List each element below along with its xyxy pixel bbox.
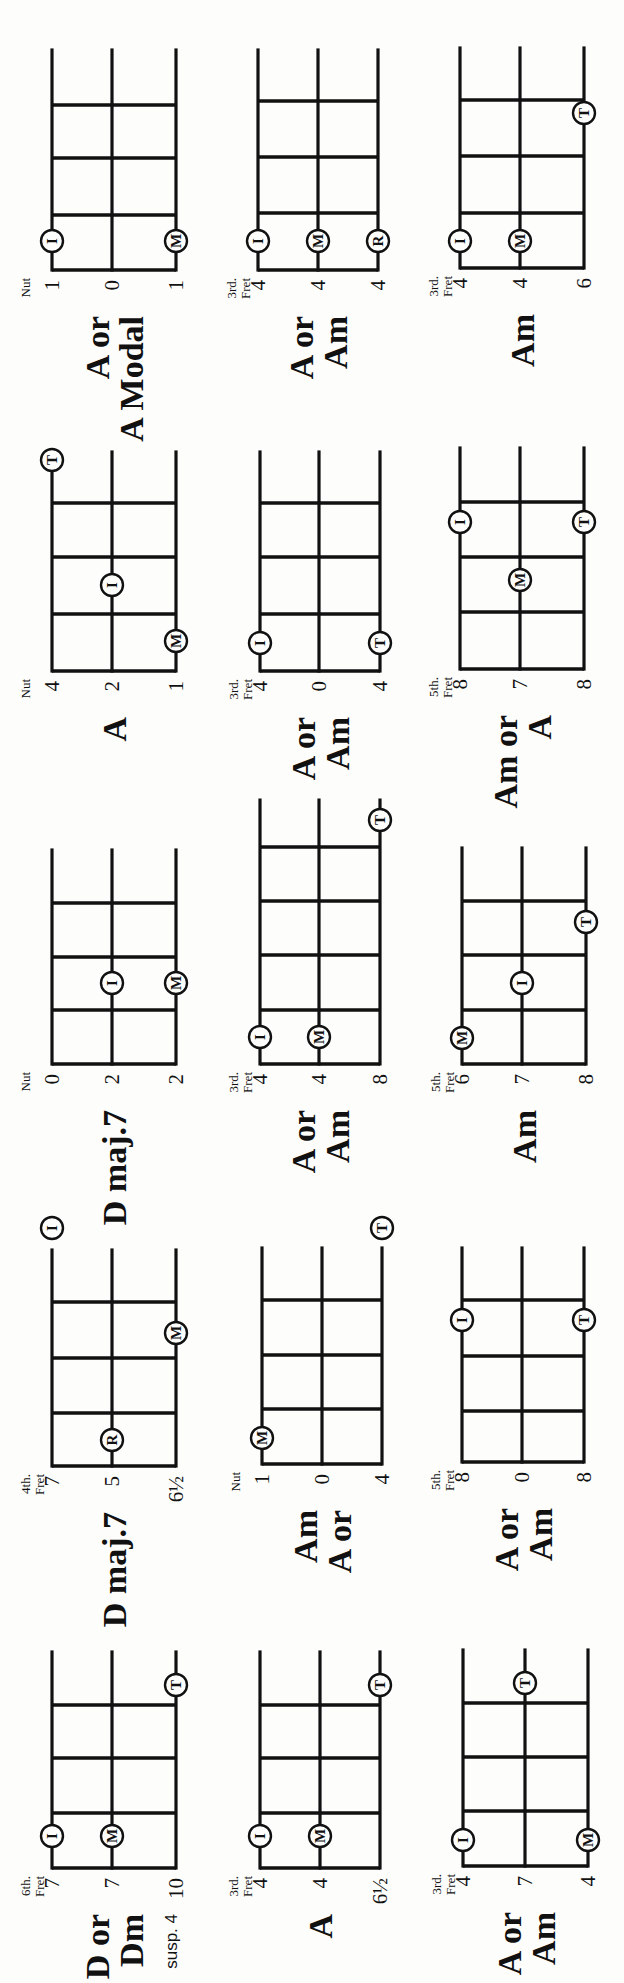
finger-label: I — [44, 1225, 60, 1231]
chord-name: D maj.7 — [96, 1512, 133, 1627]
string-fret-number: 10 — [164, 1878, 188, 1899]
finger-label: M — [312, 1829, 328, 1843]
position-label-fret: Fret — [32, 1474, 47, 1495]
finger-label: I — [252, 1833, 268, 1839]
finger-label: I — [104, 980, 120, 986]
position-label-fret: Fret — [240, 679, 255, 700]
string-fret-number: 0 — [310, 1474, 334, 1485]
chord-diagram: 421NutMITA — [18, 449, 188, 742]
chord-name: A or — [285, 1110, 322, 1173]
chord-name: A or — [321, 1510, 358, 1573]
chord-name: Am or — [487, 715, 524, 808]
finger-label: M — [104, 1829, 120, 1843]
finger-label: R — [370, 235, 386, 246]
position-label: Nut — [18, 278, 33, 298]
chord-name: Am — [319, 717, 356, 770]
string-fret-number: 4 — [40, 681, 64, 692]
position-label-fret: Fret — [32, 1876, 47, 1897]
position-label-fret: Fret — [442, 1470, 457, 1491]
position-label: 5th. — [428, 1072, 443, 1092]
string-fret-number: 6½ — [368, 1878, 392, 1904]
finger-label: M — [168, 634, 184, 648]
finger-label: I — [44, 1833, 60, 1839]
finger-label: T — [576, 517, 592, 527]
chord-name: A or — [79, 316, 116, 379]
position-label-fret: Fret — [240, 1072, 255, 1093]
finger-label: I — [252, 1034, 268, 1040]
chord-name: D maj.7 — [96, 1110, 133, 1225]
chord-name: Am — [287, 1510, 324, 1563]
position-label: 4th. — [18, 1474, 33, 1494]
finger-label: T — [517, 1678, 533, 1688]
finger-label: M — [254, 1431, 270, 1445]
chord-diagram: 4043rd.FretITA orAm — [226, 452, 392, 780]
finger-label: M — [580, 1833, 596, 1847]
chord-name: A — [302, 1914, 339, 1939]
string-fret-number: 8 — [368, 1074, 392, 1085]
chord-name: D or — [79, 1914, 116, 1979]
string-fret-number: 2 — [100, 1074, 124, 1085]
finger-label: I — [452, 519, 468, 525]
finger-label: M — [454, 1031, 470, 1045]
finger-label: T — [372, 1680, 388, 1690]
finger-label: M — [168, 234, 184, 248]
finger-label: M — [168, 976, 184, 990]
position-label: 5th. — [428, 1470, 443, 1490]
chord-diagram: 104NutMTAmA or — [228, 1217, 394, 1573]
string-fret-number: 6 — [572, 278, 596, 289]
chord-diagram: 6785th.FretMITAm — [428, 848, 598, 1163]
string-fret-number: 4 — [576, 1876, 600, 1887]
chord-qualifier: susp. 4 — [162, 1914, 181, 1969]
finger-label: T — [372, 638, 388, 648]
chord-diagram: 101NutIMA orA Modal — [18, 50, 188, 442]
chord-name: A or — [283, 316, 320, 379]
string-fret-number: 8 — [574, 1074, 598, 1085]
finger-label: I — [44, 238, 60, 244]
finger-label: M — [168, 1326, 184, 1340]
string-fret-number: 7 — [510, 1074, 534, 1085]
string-fret-number: 4 — [366, 280, 390, 291]
position-label-fret: Fret — [443, 1874, 458, 1895]
finger-label: T — [576, 108, 592, 118]
position-label: 3rd. — [226, 679, 241, 700]
finger-label: T — [576, 1315, 592, 1325]
position-label: 3rd. — [226, 1876, 241, 1897]
string-fret-number: 2 — [164, 1074, 188, 1085]
position-label: Nut — [228, 1472, 243, 1492]
chord-diagram: 8085th.FretITA orAm — [428, 1248, 596, 1571]
finger-label: R — [104, 1434, 120, 1445]
string-fret-number: 5 — [100, 1476, 124, 1487]
string-fret-number: 4 — [368, 681, 392, 692]
string-fret-number: 7 — [513, 1876, 537, 1887]
string-fret-number: 0 — [40, 1074, 64, 1085]
string-fret-number: 7 — [508, 679, 532, 690]
chord-diagram: 8785th.FretMITAm orA — [426, 448, 596, 808]
string-fret-number: 4 — [308, 1878, 332, 1889]
chord-chart-page: 77106th.FretIMTD orDmsusp. 4446½3rd.Fret… — [0, 0, 624, 1983]
finger-label: T — [374, 1223, 390, 1233]
chord-diagram: 4463rd.FretIMTAm — [426, 48, 596, 367]
string-fret-number: 4 — [307, 1074, 331, 1085]
finger-label: T — [44, 455, 60, 465]
position-label: 6th. — [18, 1876, 33, 1896]
finger-label: M — [310, 234, 326, 248]
position-label: 5th. — [426, 677, 441, 697]
chord-name: Dm — [113, 1914, 150, 1967]
position-label-fret: Fret — [240, 1876, 255, 1897]
chord-diagram: 022NutIMD maj.7 — [18, 850, 188, 1225]
finger-label: M — [311, 1030, 327, 1044]
position-label: 3rd. — [224, 278, 239, 299]
string-fret-number: 4 — [306, 280, 330, 291]
finger-label: I — [252, 640, 268, 646]
string-fret-number: 0 — [307, 681, 331, 692]
position-label: Nut — [18, 1072, 33, 1092]
finger-label: M — [512, 234, 528, 248]
string-fret-number: 0 — [510, 1472, 534, 1483]
string-fret-number: 4 — [370, 1474, 394, 1485]
chord-diagram: 4443rd.FretIMRA orAm — [224, 50, 390, 379]
position-label-fret: Fret — [440, 677, 455, 698]
string-fret-number: 0 — [100, 280, 124, 291]
string-fret-number: 8 — [572, 1472, 596, 1483]
finger-label: I — [104, 582, 120, 588]
finger-label: I — [454, 1317, 470, 1323]
